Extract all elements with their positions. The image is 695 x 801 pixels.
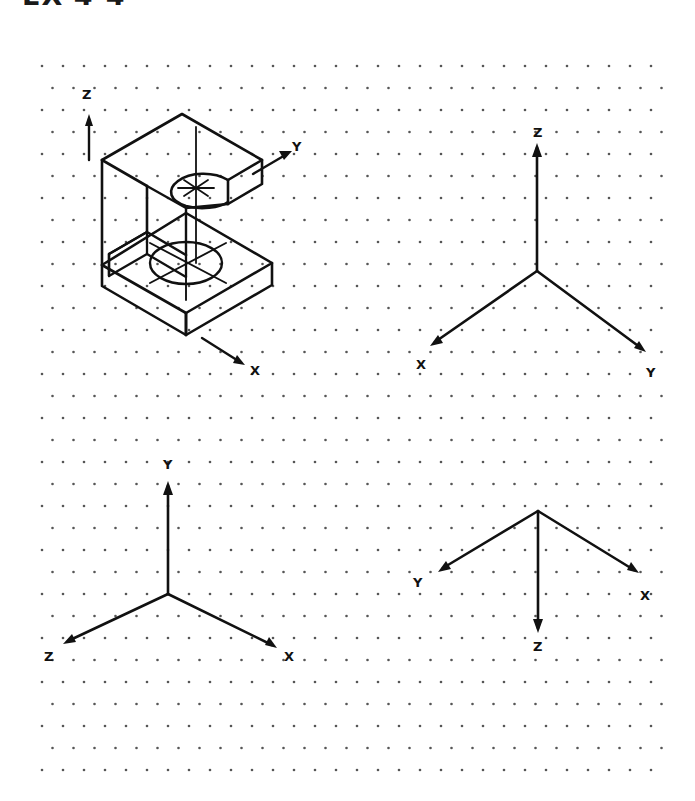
drawing-page: EX 4-4 xyxy=(0,0,695,801)
triad2-axis-label-z: Z xyxy=(44,650,53,663)
triad2-axis-label-y: Y xyxy=(163,458,172,471)
triad3-axis-label-x: X xyxy=(640,589,650,602)
axis-arrow-x xyxy=(202,338,240,362)
triad1-axis-label-x: X xyxy=(416,358,426,371)
axes-top-right-lines xyxy=(430,143,646,352)
technical-drawing-canvas xyxy=(0,0,695,801)
iso-axis-label-z: Z xyxy=(82,88,91,101)
iso-axis-label-x: X xyxy=(250,364,260,377)
axes-bottom-right-lines xyxy=(438,511,639,633)
triad2-axis-label-x: X xyxy=(284,650,294,663)
triad3-axis-label-z: Z xyxy=(533,640,542,653)
triad1-axis-label-y: Y xyxy=(646,366,655,379)
triad3-axis-label-y: Y xyxy=(413,576,422,589)
isometric-part-body xyxy=(102,114,272,335)
triad1-axis-label-z: Z xyxy=(533,126,542,139)
axes-bottom-left-lines xyxy=(63,481,277,648)
iso-axis-label-y: Y xyxy=(292,140,301,153)
